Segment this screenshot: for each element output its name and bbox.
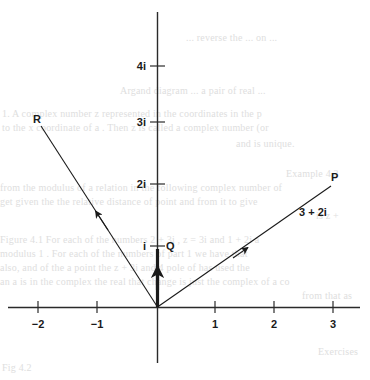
tick-label-i: i xyxy=(143,240,146,252)
tick-label-2i: 2i xyxy=(137,178,146,190)
tick-label-2: 2 xyxy=(271,318,277,330)
real-axis-tick-labels: −2 −1 1 2 3 xyxy=(32,318,336,330)
imaginary-axis-tick-labels: 4i 3i 2i i xyxy=(137,60,146,252)
argand-diagram-canvas: 4i 3i 2i i −2 −1 1 2 3 P 3 + 2i Q R xyxy=(0,0,370,380)
axes xyxy=(8,12,360,363)
vector-p-value-label: 3 + 2i xyxy=(299,206,327,218)
tick-label-4i: 4i xyxy=(137,60,146,72)
tick-label-3i: 3i xyxy=(137,116,146,128)
argand-diagram: 4i 3i 2i i −2 −1 1 2 3 P 3 + 2i Q R xyxy=(0,0,370,380)
vector-p: P 3 + 2i xyxy=(158,171,339,307)
tick-label-1: 1 xyxy=(212,318,218,330)
point-label-p: P xyxy=(331,171,338,183)
tick-label-3: 3 xyxy=(330,318,336,330)
vector-p-line xyxy=(158,186,332,307)
point-label-r: R xyxy=(33,113,41,125)
tick-label-minus-1: −1 xyxy=(91,318,104,330)
vector-r-arrowhead xyxy=(96,211,109,230)
vector-r: R xyxy=(33,113,158,307)
point-label-q: Q xyxy=(166,240,175,252)
tick-label-minus-2: −2 xyxy=(32,318,45,330)
